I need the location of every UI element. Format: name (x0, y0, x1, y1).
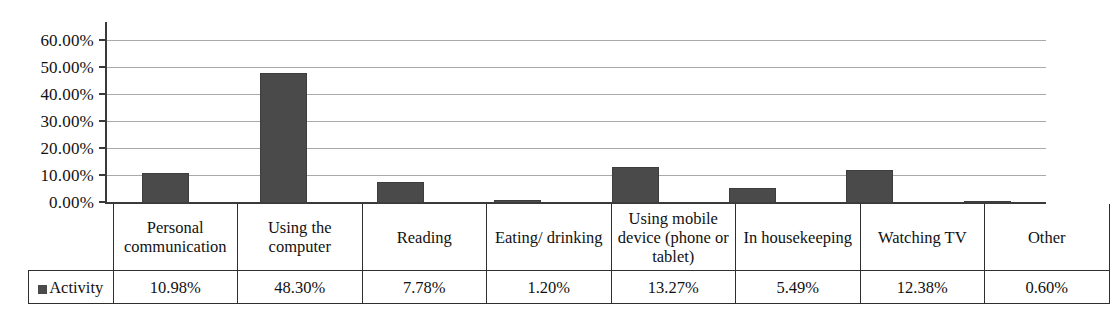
table-row-categories: Personal communicationUsing the computer… (29, 204, 1110, 271)
y-axis-tick-mark (99, 147, 107, 149)
value-cell: 1.20% (487, 271, 612, 304)
y-axis-tick-label: 30.00% (40, 113, 94, 130)
y-axis-tick-mark (99, 174, 107, 176)
category-header-cell: Reading (362, 204, 487, 271)
bar (846, 170, 893, 203)
y-axis-tick-label: 50.00% (40, 59, 94, 76)
value-cell: 10.98% (113, 271, 238, 304)
bar (260, 73, 307, 203)
category-header-cell: Watching TV (860, 204, 985, 271)
bar (964, 201, 1011, 203)
y-axis-tick-label: 20.00% (40, 140, 94, 157)
table-row-values: Activity 10.98%48.30%7.78%1.20%13.27%5.4… (29, 271, 1110, 304)
value-cell: 12.38% (860, 271, 985, 304)
y-axis-tick-mark (99, 120, 107, 122)
y-axis-tick-mark (99, 201, 107, 203)
value-cell: 5.49% (736, 271, 861, 304)
bar (377, 182, 424, 203)
category-header-cell: Eating/ drinking (487, 204, 612, 271)
category-header-cell: Using the computer (238, 204, 363, 271)
legend-cell: Activity (29, 271, 114, 304)
bar (142, 173, 189, 203)
y-axis-tick-mark (99, 39, 107, 41)
category-header-cell: Other (985, 204, 1110, 271)
legend-label: Activity (49, 278, 103, 297)
y-axis-tick-label: 60.00% (40, 32, 94, 49)
value-cell: 0.60% (985, 271, 1110, 304)
category-header-cell: Using mobile device (phone or tablet) (611, 204, 736, 271)
value-cell: 7.78% (362, 271, 487, 304)
bar (729, 188, 776, 203)
bars-layer (107, 0, 1046, 203)
category-header-cell: In housekeeping (736, 204, 861, 271)
y-axis-tick-label: 40.00% (40, 86, 94, 103)
y-axis-tick-labels: 0.00%10.00%20.00%30.00%40.00%50.00%60.00… (0, 0, 100, 210)
value-cell: 13.27% (611, 271, 736, 304)
legend-swatch-icon (38, 285, 47, 294)
bar (612, 167, 659, 203)
y-axis-tick-label: 10.00% (40, 167, 94, 184)
category-header-cell: Personal communication (113, 204, 238, 271)
category-row-spacer (29, 204, 114, 271)
data-table: Personal communicationUsing the computer… (28, 204, 1110, 304)
y-axis-tick-mark (99, 66, 107, 68)
value-cell: 48.30% (238, 271, 363, 304)
bar (494, 200, 541, 203)
plot-area: 0.00%10.00%20.00%30.00%40.00%50.00%60.00… (0, 0, 1076, 210)
y-axis-tick-mark (99, 93, 107, 95)
